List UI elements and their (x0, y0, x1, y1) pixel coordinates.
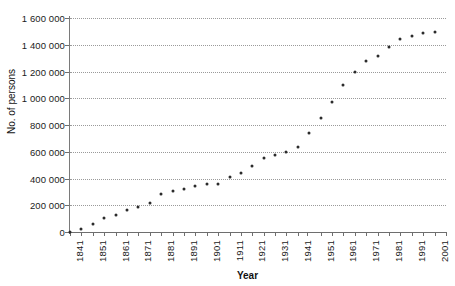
data-point (331, 101, 334, 104)
gridline-1000000 (70, 98, 446, 99)
gridline-400000 (70, 179, 446, 180)
data-point (148, 201, 151, 204)
x-tick-mark (218, 232, 219, 236)
x-tick-mark (138, 232, 139, 236)
y-tick-mark (65, 179, 69, 180)
x-tick-mark (275, 232, 276, 236)
data-point (353, 70, 356, 73)
x-tick-mark (412, 232, 413, 236)
y-tick-mark (65, 152, 69, 153)
y-axis-title: No. of persons (6, 47, 17, 157)
y-tick-label: 1 200 000 (22, 66, 65, 77)
y-axis-line (69, 16, 70, 234)
y-tick-mark (65, 72, 69, 73)
data-point (239, 171, 242, 174)
x-tick-mark (332, 232, 333, 236)
data-point (103, 217, 106, 220)
x-tick-mark (286, 232, 287, 236)
y-tick-label: 600 000 (30, 146, 65, 157)
x-tick-mark (161, 232, 162, 236)
gridline-1600000 (70, 18, 446, 19)
data-point (228, 175, 231, 178)
x-tick-label: 1851 (97, 240, 108, 262)
y-tick-label: 1 400 000 (22, 39, 65, 50)
x-tick-label: 1941 (302, 240, 313, 262)
data-point (319, 116, 322, 119)
data-point (160, 193, 163, 196)
y-tick-label: 400 000 (30, 173, 65, 184)
x-tick-mark (423, 232, 424, 236)
data-point (342, 84, 345, 87)
data-point (69, 230, 72, 233)
gridline-200000 (70, 205, 446, 206)
chart-screenshot: 0200 000400 000600 000800 0001 000 0001 … (0, 0, 455, 286)
x-axis-title-text: Year (197, 270, 258, 281)
gridline-800000 (70, 125, 446, 126)
x-tick-label: 1991 (416, 240, 427, 262)
data-point (410, 34, 413, 37)
x-tick-mark (298, 232, 299, 236)
data-point (376, 54, 379, 57)
x-tick-mark (195, 232, 196, 236)
x-tick-mark (355, 232, 356, 236)
x-tick-mark (435, 232, 436, 236)
x-tick-mark (366, 232, 367, 236)
x-tick-mark (230, 232, 231, 236)
x-axis-title: Year (0, 270, 455, 281)
data-point (171, 189, 174, 192)
x-tick-label: 1971 (370, 240, 381, 262)
gridline-600000 (70, 152, 446, 153)
data-point (91, 222, 94, 225)
data-point (80, 228, 83, 231)
y-tick-mark (65, 125, 69, 126)
x-tick-label: 2001 (439, 240, 450, 262)
plot-area (70, 18, 446, 232)
y-tick-label: 1 600 000 (22, 13, 65, 24)
data-point (205, 183, 208, 186)
data-point (194, 184, 197, 187)
x-tick-mark (446, 232, 447, 236)
x-tick-mark (150, 232, 151, 236)
x-tick-mark (207, 232, 208, 236)
data-point (274, 153, 277, 156)
y-tick-mark (65, 98, 69, 99)
x-tick-mark (343, 232, 344, 236)
x-tick-mark (321, 232, 322, 236)
data-point (422, 32, 425, 35)
data-point (399, 37, 402, 40)
x-tick-mark (264, 232, 265, 236)
data-point (125, 209, 128, 212)
data-point (388, 46, 391, 49)
data-point (251, 164, 254, 167)
x-tick-label: 1911 (234, 240, 245, 261)
x-tick-label: 1861 (120, 240, 131, 262)
x-tick-mark (307, 232, 308, 236)
y-tick-label: 1 000 000 (22, 93, 65, 104)
data-point (365, 60, 368, 63)
x-tick-mark (104, 232, 105, 236)
x-tick-label: 1881 (165, 240, 176, 262)
x-tick-label: 1931 (279, 240, 290, 262)
x-tick-mark (252, 232, 253, 236)
y-tick-label: 800 000 (30, 120, 65, 131)
x-tick-label: 1871 (142, 240, 153, 262)
x-tick-mark (127, 232, 128, 236)
x-tick-mark (184, 232, 185, 236)
data-point (114, 214, 117, 217)
x-tick-label: 1891 (188, 240, 199, 262)
data-point (285, 150, 288, 153)
data-point (308, 132, 311, 135)
x-tick-label: 1921 (256, 240, 267, 262)
x-tick-mark (389, 232, 390, 236)
x-tick-mark (378, 232, 379, 236)
x-tick-mark (116, 232, 117, 236)
data-point (296, 146, 299, 149)
gridline-1200000 (70, 72, 446, 73)
data-point (262, 156, 265, 159)
y-tick-mark (65, 18, 69, 19)
x-tick-label: 1841 (74, 240, 85, 262)
x-tick-label: 1901 (211, 240, 222, 262)
x-tick-mark (400, 232, 401, 236)
data-point (182, 188, 185, 191)
data-point (217, 182, 220, 185)
